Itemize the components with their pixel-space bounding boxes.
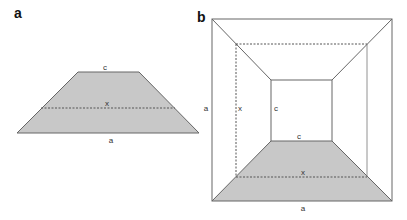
- figure: a c x a b a x c c x a: [0, 0, 407, 220]
- panel-b-diagonal-tl: [212, 19, 271, 80]
- panel-b-label-a-side: a: [204, 104, 209, 113]
- panel-b-label-c-bottom: c: [297, 132, 301, 141]
- panel-a-label-x: x: [105, 99, 109, 108]
- panel-a-label: a: [14, 5, 22, 21]
- panel-b-diagonal-tr: [332, 19, 392, 80]
- panel-b-label-a-bottom: a: [301, 204, 306, 213]
- panel-b-label-x-bottom: x: [301, 168, 305, 177]
- panel-b-label-x-side: x: [238, 104, 242, 113]
- panel-a-label-c: c: [103, 63, 107, 72]
- panel-b-label-c-side: c: [274, 104, 278, 113]
- panel-a-label-a: a: [109, 136, 114, 145]
- panel-b-inner-square: [271, 80, 332, 141]
- panel-b-label: b: [197, 9, 206, 25]
